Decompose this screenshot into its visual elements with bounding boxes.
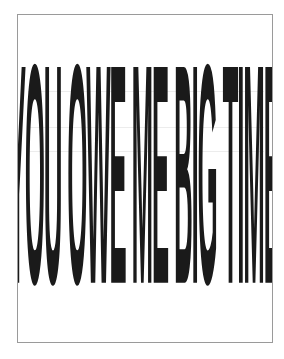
poster-frame: YOU OWE ME BIG TIME xyxy=(17,14,273,343)
poster-text: YOU OWE ME BIG TIME xyxy=(17,25,273,339)
poster-text-container: YOU OWE ME BIG TIME xyxy=(28,29,260,335)
